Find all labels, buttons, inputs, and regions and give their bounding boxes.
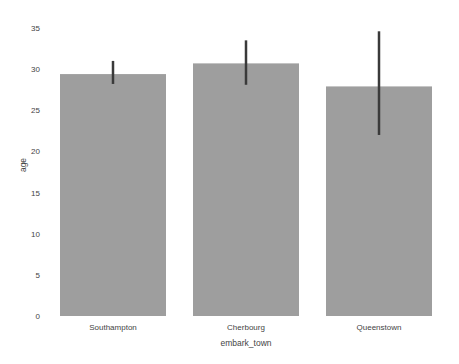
bar-cherbourg	[193, 63, 299, 316]
x-tick-label: Cherbourg	[227, 323, 265, 332]
y-axis-ticks: 05101520253035	[31, 24, 40, 321]
y-tick-label: 35	[31, 24, 40, 33]
bar-southampton	[60, 74, 166, 316]
x-axis-ticks: SouthamptonCherbourgQueenstown	[89, 323, 401, 332]
bars	[60, 63, 432, 316]
y-tick-label: 15	[31, 189, 40, 198]
y-tick-label: 10	[31, 230, 40, 239]
y-tick-label: 25	[31, 106, 40, 115]
bar-chart: 05101520253035 SouthamptonCherbourgQueen…	[0, 0, 459, 364]
y-tick-label: 5	[36, 271, 41, 280]
x-tick-label: Queenstown	[357, 323, 402, 332]
x-tick-label: Southampton	[89, 323, 137, 332]
y-tick-label: 30	[31, 65, 40, 74]
y-tick-label: 20	[31, 147, 40, 156]
y-tick-label: 0	[36, 312, 41, 321]
y-axis-label: age	[18, 158, 28, 172]
x-axis-label: embark_town	[220, 338, 271, 348]
